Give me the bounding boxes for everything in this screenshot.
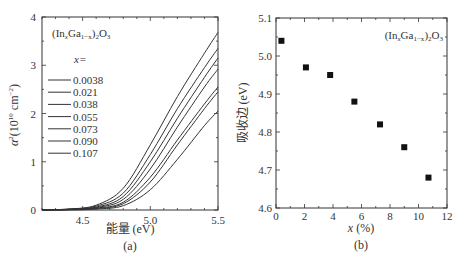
panel-a-chart: 012344.55.05.5 x=0.00380.0210.0380.0550.… [7, 11, 225, 253]
data-point [327, 72, 333, 78]
panel-b-ytick-label: 4.9 [258, 88, 272, 100]
legend-entry: 0.0038 [73, 74, 104, 86]
panel-a-ytick-label: 1 [31, 156, 37, 168]
panel-a-legend: x=0.00380.0210.0380.0550.0730.0900.107 [48, 53, 104, 159]
panel-a-ylabel: α2(1010 cm−2) [7, 84, 21, 146]
data-point [351, 99, 357, 105]
panel-a-ytick-label: 4 [31, 11, 37, 23]
legend-entry: 0.021 [73, 86, 98, 98]
panel-b-label: (b) [354, 238, 368, 252]
panel-a-label: (a) [123, 239, 136, 253]
panel-a-plot-frame [42, 17, 218, 210]
series-line-0.038 [42, 58, 218, 210]
panel-b-ylabel: 吸收边 (eV) [236, 83, 250, 144]
panel-b-annotation: (InxGa1−x)2O3 [385, 29, 444, 43]
panel-b-xtick-label: 4 [330, 210, 336, 222]
panel-b-ytick-label: 4.6 [258, 202, 272, 214]
legend-entry: 0.107 [73, 147, 98, 159]
legend-entry: 0.038 [73, 98, 98, 110]
panel-a-ticks: 012344.55.05.5 [31, 11, 226, 226]
panel-b-plot-frame [276, 18, 447, 208]
panel-a-curves [42, 32, 218, 210]
panel-b-xtick-label: 12 [442, 210, 453, 222]
figure: 012344.55.05.5 x=0.00380.0210.0380.0550.… [0, 0, 465, 263]
series-line-0.090 [42, 92, 218, 210]
panel-b-xlabel: x (%) [347, 221, 374, 235]
panel-b-ytick-label: 4.7 [258, 164, 272, 176]
legend-entry: 0.073 [73, 123, 98, 135]
panel-a-ytick-label: 3 [31, 59, 37, 71]
panel-b-chart: 4.64.74.84.95.05.1024681012 (InxGa1−x)2O… [236, 12, 453, 252]
data-point [303, 64, 309, 70]
legend-entry: 0.055 [73, 111, 98, 123]
panel-b-ticks: 4.64.74.84.95.05.1024681012 [258, 12, 452, 222]
legend-entry: 0.090 [73, 135, 98, 147]
panel-a-ytick-label: 0 [31, 204, 37, 216]
panel-b-xtick-label: 0 [273, 210, 279, 222]
legend-title: x= [73, 53, 86, 65]
data-point [425, 175, 431, 181]
data-point [377, 121, 383, 127]
panel-b-xtick-label: 8 [387, 210, 393, 222]
data-point [278, 38, 284, 44]
panel-a-xlabel: 能量 (eV) [106, 222, 155, 236]
panel-b-xtick-label: 10 [413, 210, 425, 222]
panel-a-xtick-label: 4.5 [76, 214, 90, 226]
panel-b-ytick-label: 5.0 [258, 50, 272, 62]
panel-a-annotation: (InxGa1−x)2O3 [52, 27, 111, 41]
panel-b-xtick-label: 2 [302, 210, 308, 222]
data-point [401, 144, 407, 150]
panel-b-points [278, 38, 431, 181]
panel-b-ytick-label: 5.1 [258, 12, 272, 24]
panel-b-ytick-label: 4.8 [258, 126, 272, 138]
panel-a-xtick-label: 5.5 [211, 214, 225, 226]
panel-a-ytick-label: 2 [31, 108, 37, 120]
